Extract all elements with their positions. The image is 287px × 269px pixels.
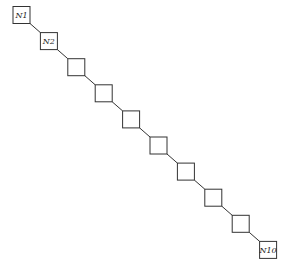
edge-connector [249, 232, 259, 241]
node-box [95, 85, 112, 102]
edge-connector [112, 102, 122, 111]
node-2: N2 [40, 33, 57, 50]
edge-connector [85, 76, 95, 85]
node-10: N10 [259, 241, 277, 258]
node-box [205, 189, 222, 206]
node-1: N1 [13, 7, 30, 24]
node-8 [205, 189, 222, 206]
node-3 [68, 59, 85, 76]
node-box [68, 59, 85, 76]
node-box [123, 111, 140, 128]
node-6 [150, 137, 167, 154]
node-7 [177, 163, 194, 180]
node-9 [232, 215, 249, 232]
edge-connector [194, 180, 204, 189]
edge-connector [167, 154, 177, 163]
node-5 [123, 111, 140, 128]
node-box [150, 137, 167, 154]
node-box [177, 163, 194, 180]
edge-connector [30, 24, 40, 33]
node-box [232, 215, 249, 232]
chain-diagram: N1N2N10 [0, 0, 287, 269]
node-label: N1 [14, 11, 27, 20]
node-label: N10 [259, 246, 277, 255]
node-4 [95, 85, 112, 102]
edge-connector [57, 50, 67, 59]
edge-connector [222, 206, 232, 215]
node-label: N2 [42, 37, 55, 46]
edge-connector [140, 128, 150, 137]
